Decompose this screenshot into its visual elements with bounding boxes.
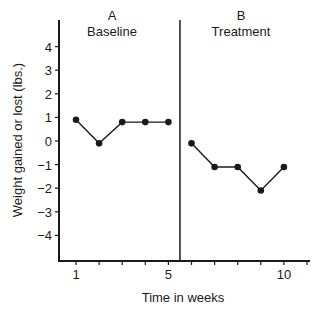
data-point: [211, 164, 218, 171]
axes: 43210−1−2−3−41510: [37, 20, 310, 282]
y-axis-label: Weight gained or lost (lbs.): [10, 63, 25, 217]
y-tick-label: 0: [45, 134, 52, 149]
data-point: [96, 140, 103, 147]
y-tick-label: 3: [45, 63, 52, 78]
data-point: [73, 116, 80, 123]
phase-a-label: Baseline: [87, 24, 137, 39]
y-tick-label: 2: [45, 87, 52, 102]
x-tick-label: 5: [165, 267, 172, 282]
data-point: [165, 119, 172, 126]
y-tick-label: 1: [45, 110, 52, 125]
x-tick-label: 10: [277, 267, 291, 282]
y-tick-label: −3: [37, 205, 52, 220]
phase-b-letter: B: [237, 8, 246, 23]
y-tick-label: −1: [37, 158, 52, 173]
y-tick-label: −2: [37, 181, 52, 196]
phase-a-letter: A: [108, 8, 117, 23]
phase-b-label: Treatment: [212, 24, 271, 39]
data-point: [188, 140, 195, 147]
y-tick-label: 4: [45, 40, 52, 55]
x-axis-label: Time in weeks: [142, 290, 225, 305]
data-point: [142, 119, 149, 126]
y-tick-label: −4: [37, 228, 52, 243]
data-point: [234, 164, 241, 171]
x-tick-label: 1: [72, 267, 79, 282]
data-point: [281, 164, 288, 171]
data-point: [258, 187, 265, 194]
data-point: [119, 119, 126, 126]
chart: 43210−1−2−3−41510 A Baseline B Treatment…: [0, 0, 328, 318]
